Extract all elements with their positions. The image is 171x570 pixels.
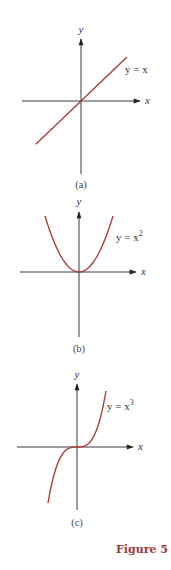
x-axis-label: x xyxy=(140,265,146,277)
figure-label: Figure 5 xyxy=(116,543,168,556)
figure-5: y x y = x (a) y x y = x2 (b) y x y = x3 … xyxy=(0,0,171,570)
equation-text: y = x xyxy=(107,400,130,412)
equation-label: y = x xyxy=(125,63,148,75)
y-axis-label: y xyxy=(76,195,82,207)
equation-label: y = x3 xyxy=(107,398,134,412)
equation-exponent: 3 xyxy=(130,398,134,407)
panel-caption: (b) xyxy=(73,343,86,355)
equation-text: y = x xyxy=(116,231,139,243)
equation-text: y = x xyxy=(125,63,148,75)
x-axis-label: x xyxy=(144,94,150,106)
panel-caption: (a) xyxy=(75,179,87,191)
y-axis-label: y xyxy=(78,23,84,35)
panel-b: y x y = x2 (b) xyxy=(20,195,146,355)
panel-caption: (c) xyxy=(71,517,83,529)
equation-exponent: 2 xyxy=(139,229,143,238)
panel-a: y x y = x (a) xyxy=(22,23,150,191)
panel-c: y x y = x3 (c) xyxy=(17,368,143,529)
x-axis-label: x xyxy=(137,440,143,452)
y-axis-label: y xyxy=(74,368,80,380)
equation-label: y = x2 xyxy=(116,229,143,243)
